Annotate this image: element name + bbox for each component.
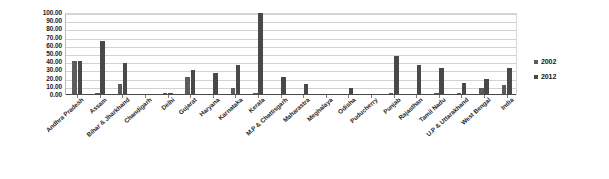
bar bbox=[258, 13, 263, 95]
x-axis-label: Gujarat bbox=[177, 96, 198, 116]
legend-swatch-2012-icon bbox=[534, 75, 538, 79]
bar bbox=[213, 73, 218, 95]
bar-group bbox=[360, 14, 383, 95]
bar-group bbox=[428, 14, 451, 95]
bar-chart: 100.0090.0080.0070.0060.0050.0040.0030.0… bbox=[0, 0, 609, 179]
x-axis-label: Kerala bbox=[247, 96, 266, 114]
x-axis-label: Odisha bbox=[336, 96, 356, 115]
legend-swatch-2002-icon bbox=[534, 60, 538, 64]
y-tick-label: 0.00 bbox=[18, 92, 62, 99]
bar bbox=[78, 61, 83, 95]
y-tick-label: 80.00 bbox=[18, 26, 62, 33]
bar-group bbox=[202, 14, 225, 95]
bar bbox=[185, 77, 190, 95]
y-tick-label: 20.00 bbox=[18, 75, 62, 82]
bar bbox=[507, 68, 512, 95]
x-axis-label: Andhra Pradesh bbox=[45, 96, 85, 133]
x-axis-line bbox=[66, 94, 516, 95]
bar bbox=[484, 79, 489, 95]
bar bbox=[439, 68, 444, 95]
y-tick-label: 40.00 bbox=[18, 59, 62, 66]
y-tick-label: 100.00 bbox=[18, 10, 62, 16]
x-axis-label: Punjab bbox=[381, 96, 401, 115]
y-tick-label: 90.00 bbox=[18, 18, 62, 25]
bar-group bbox=[156, 14, 179, 95]
bar bbox=[394, 56, 399, 95]
bar-group bbox=[66, 14, 89, 95]
bar-group bbox=[89, 14, 112, 95]
bar-group bbox=[382, 14, 405, 95]
plot-area bbox=[65, 13, 517, 95]
bar bbox=[123, 63, 128, 95]
chart-legend: 2002 2012 bbox=[534, 54, 604, 84]
bar-group bbox=[134, 14, 157, 95]
legend-item: 2002 bbox=[534, 54, 604, 69]
bar-group bbox=[337, 14, 360, 95]
x-axis-label: Assam bbox=[88, 96, 108, 115]
y-tick-label: 50.00 bbox=[18, 51, 62, 58]
legend-label: 2002 bbox=[541, 58, 556, 65]
bar bbox=[72, 61, 77, 95]
bar-group bbox=[405, 14, 428, 95]
bar-group bbox=[473, 14, 496, 95]
bar-group bbox=[450, 14, 473, 95]
x-axis-labels: Andhra PradeshAssamBihar & JharkhandChan… bbox=[65, 96, 517, 176]
bar-group bbox=[269, 14, 292, 95]
y-tick-label: 30.00 bbox=[18, 67, 62, 74]
bar bbox=[236, 65, 241, 95]
bar bbox=[417, 65, 422, 95]
bar bbox=[191, 70, 196, 95]
bar bbox=[100, 41, 105, 95]
y-tick-label: 10.00 bbox=[18, 84, 62, 91]
y-axis: 100.0090.0080.0070.0060.0050.0040.0030.0… bbox=[18, 13, 62, 95]
bar-group bbox=[179, 14, 202, 95]
bar-group bbox=[315, 14, 338, 95]
x-axis-label: Delhi bbox=[159, 96, 175, 111]
y-tick-label: 70.00 bbox=[18, 34, 62, 41]
bar-group bbox=[224, 14, 247, 95]
bar-group bbox=[292, 14, 315, 95]
x-axis-label: India bbox=[499, 96, 514, 111]
bar-group bbox=[247, 14, 270, 95]
legend-label: 2012 bbox=[541, 73, 556, 80]
bars-layer bbox=[66, 14, 516, 95]
bar bbox=[281, 77, 286, 95]
bar-group bbox=[111, 14, 134, 95]
y-tick-label: 60.00 bbox=[18, 43, 62, 50]
legend-item: 2012 bbox=[534, 69, 604, 84]
bar-group bbox=[495, 14, 518, 95]
